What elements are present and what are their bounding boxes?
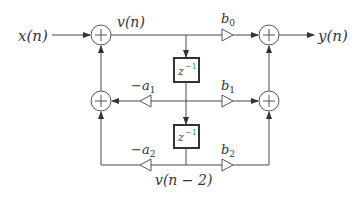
gain-b1-label: b1 (221, 78, 235, 95)
svg-text:z: z (177, 65, 184, 78)
svg-text:z: z (177, 131, 184, 144)
gain-a1-triangle (140, 95, 151, 107)
gain-b1-triangle (222, 95, 233, 107)
gain-a2-label: −a2 (131, 142, 155, 159)
input-label: x(n) (18, 27, 48, 45)
svg-text:−1: −1 (185, 62, 197, 71)
adder-middle-right (259, 91, 279, 111)
gain-a2-triangle (140, 159, 151, 171)
gain-b2-label: b2 (221, 142, 235, 159)
gain-a1-label: −a1 (131, 78, 155, 95)
delay-block-2: z −1 (174, 125, 199, 148)
state-label-bottom: v(n − 2) (155, 172, 212, 188)
output-label: y(n) (317, 27, 348, 45)
gain-b2-triangle (222, 159, 233, 171)
adder-middle-left (91, 91, 111, 111)
filter-diagram: x(n) v(n) b0 y(n) z −1 −a1 b1 (0, 0, 361, 197)
adder-top-right (259, 25, 279, 45)
state-label-top: v(n) (117, 14, 145, 30)
gain-b0-label: b0 (221, 11, 235, 28)
delay-block-1: z −1 (174, 58, 199, 82)
svg-text:−1: −1 (185, 128, 197, 137)
adder-top-left (91, 25, 111, 45)
gain-b0-triangle (222, 29, 233, 41)
